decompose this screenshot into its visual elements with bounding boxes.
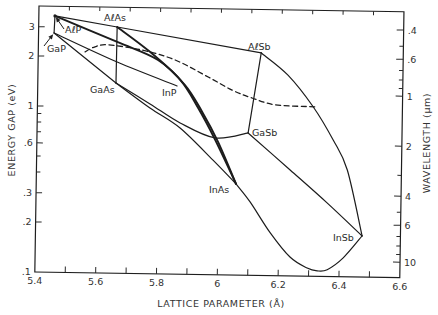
y-tick-label: .3: [23, 187, 32, 198]
x-tick-label: 5.6: [88, 276, 103, 287]
bandgap-lattice-chart: 5.45.65.866.26.46.6321.6.3.2.1.4.6124610…: [0, 0, 438, 315]
y-tick-label: 2: [28, 50, 34, 61]
x-tick-label: 6.2: [271, 279, 286, 290]
x-tick-label: 6.6: [392, 281, 407, 292]
y-tick-label: .1: [22, 266, 31, 277]
y-tick-label: 3: [29, 21, 35, 32]
y2-tick-label: 10: [404, 257, 416, 268]
compound-label-gaas: GaAs: [90, 84, 115, 95]
compound-label-inp: InP: [162, 87, 177, 98]
x-axis-title: LATTICE PARAMETER (Å): [157, 298, 285, 309]
y2-tick-label: 4: [405, 191, 411, 202]
y2-tick-label: 2: [406, 141, 412, 152]
y-tick-label: .6: [24, 137, 33, 148]
y-tick-label: 1: [27, 100, 33, 111]
compound-label-insb: InSb: [333, 232, 354, 243]
x-tick-label: 5.8: [149, 277, 164, 288]
y2-tick-label: 1: [407, 91, 413, 102]
y-axis-left-title: ENERGY GAP (eV): [6, 84, 17, 177]
compound-label-gasb: GaSb: [252, 127, 277, 138]
y2-tick-label: 6: [405, 220, 411, 231]
y2-tick-label: .6: [407, 54, 416, 65]
compound-label-alp: AℓP: [65, 24, 81, 35]
compound-label-inas: InAs: [209, 184, 229, 195]
x-tick-label: 6.4: [331, 280, 346, 291]
compound-label-alsb: AℓSb: [248, 41, 270, 52]
compound-label-gap: GaP: [47, 43, 66, 54]
y-tick-label: .2: [23, 216, 32, 227]
alp-point-marker: [53, 14, 56, 17]
y2-tick-label: .4: [408, 25, 417, 36]
y-axis-right-title: WAVELENGTH (μm): [421, 93, 432, 193]
compound-label-alas: AℓAs: [104, 12, 126, 23]
x-tick-label: 6: [214, 278, 220, 289]
